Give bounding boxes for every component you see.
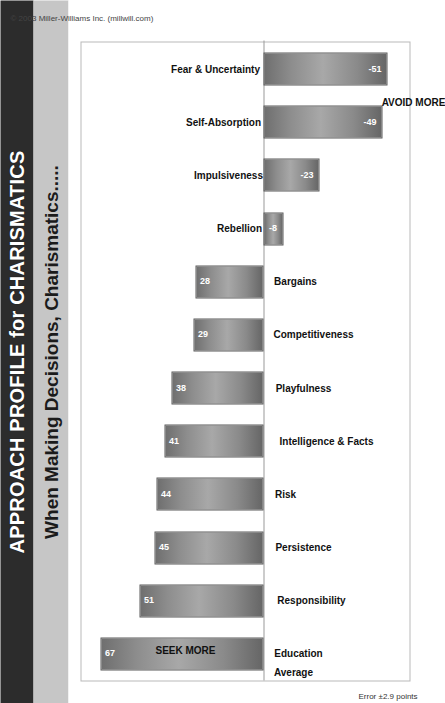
page-title: APPROACH PROFILE for CHARISMATICS — [5, 150, 28, 553]
plot-area: 67Education51Responsibility45Persistence… — [80, 41, 410, 681]
bar[interactable]: 38 — [171, 371, 263, 404]
bar-category-label: Risk — [274, 489, 295, 499]
seek-more-label: SEEK MORE — [155, 645, 215, 656]
bar[interactable]: -51 — [263, 52, 387, 85]
bar-value-label: 45 — [158, 543, 168, 552]
bar[interactable]: 45 — [154, 531, 263, 564]
bar-category-label: Self-Absorption — [186, 117, 261, 127]
bar-value-label: 38 — [175, 383, 185, 392]
bar[interactable]: -23 — [263, 158, 319, 191]
bar-value-label: -49 — [363, 117, 376, 126]
bar-slot: -23Impulsiveness — [81, 148, 409, 201]
bar-category-label: Intelligence & Facts — [279, 436, 373, 446]
bar-category-label: Persistence — [275, 542, 331, 552]
chart-sheet: 67Education51Responsibility45Persistence… — [68, 0, 437, 703]
bar-value-label: 28 — [200, 277, 210, 286]
bar-category-label: Education — [273, 648, 321, 658]
bar[interactable]: -49 — [263, 105, 382, 138]
bar-value-label: -51 — [368, 64, 381, 73]
bar-value-label: -23 — [300, 170, 313, 179]
baseline-label: Average — [274, 667, 313, 678]
copyright-note: © 2003 Miller-Williams Inc. (millwill.co… — [10, 13, 153, 22]
bar-slot: 38Playfulness — [81, 361, 409, 414]
bar[interactable]: 44 — [156, 477, 263, 510]
bar[interactable]: -8 — [263, 212, 282, 245]
bar-slot: 67Education — [81, 627, 409, 680]
bar-category-label: Impulsiveness — [194, 170, 263, 180]
bar-slot: 41Intelligence & Facts — [81, 414, 409, 467]
bar-slot: 45Persistence — [81, 521, 409, 574]
bar-slot: -8Rebellion — [81, 202, 409, 255]
bar-value-label: 41 — [168, 436, 178, 445]
bar[interactable]: 41 — [164, 424, 264, 457]
bar-category-label: Bargains — [274, 276, 317, 286]
bar-slot: 29Competitiveness — [81, 308, 409, 361]
avoid-more-label: AVOID MORE — [381, 97, 445, 108]
bar-slot: 44Risk — [81, 467, 409, 520]
bar-value-label: -8 — [269, 224, 277, 233]
bar[interactable]: 51 — [139, 584, 263, 617]
bar-series: 67Education51Responsibility45Persistence… — [81, 42, 409, 680]
bar-value-label: 67 — [105, 649, 115, 658]
error-note: Error ±2.9 points — [358, 691, 417, 700]
bar-value-label: 51 — [144, 596, 154, 605]
bar-category-label: Responsibility — [276, 595, 344, 605]
bar-category-label: Rebellion — [216, 223, 261, 233]
bar-slot: 28Bargains — [81, 255, 409, 308]
bar-category-label: Playfulness — [275, 383, 331, 393]
bar-category-label: Competitiveness — [273, 329, 353, 339]
title-band: APPROACH PROFILE for CHARISMATICS — [0, 0, 33, 703]
bar-value-label: 29 — [197, 330, 207, 339]
bar-slot: -51Fear & Uncertainty — [81, 42, 409, 95]
bar-value-label: 44 — [161, 489, 171, 498]
bar-slot: 51Responsibility — [81, 574, 409, 627]
subtitle-band: When Making Decisions, Charismatics..... — [33, 0, 68, 703]
bar[interactable]: 29 — [193, 318, 264, 351]
bar[interactable]: 28 — [195, 265, 263, 298]
page-subtitle: When Making Decisions, Charismatics..... — [40, 165, 62, 539]
bar-category-label: Fear & Uncertainty — [171, 64, 260, 74]
bar-slot: -49Self-Absorption — [81, 95, 409, 148]
